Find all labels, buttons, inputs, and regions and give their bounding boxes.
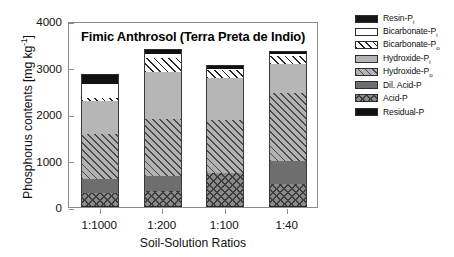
legend-label-subscript: i <box>429 57 430 64</box>
x-axis-tick <box>162 209 163 214</box>
y-axis-title-exponent: -1 <box>19 39 29 46</box>
legend-item[interactable]: Resin-Pi <box>355 12 454 25</box>
y-axis-tick <box>69 69 74 70</box>
legend-item[interactable]: Hydroxide-Po <box>355 65 454 78</box>
bar-segment[interactable] <box>81 193 119 207</box>
bar-segment[interactable] <box>144 58 182 72</box>
chart-title: Fimic Anthrosol (Terra Preta de Indio) <box>81 29 305 44</box>
legend-item[interactable]: Bicarbonate-Po <box>355 39 454 52</box>
bar-segment[interactable] <box>269 56 307 64</box>
bar-segment[interactable] <box>144 119 182 175</box>
legend-label-subscript: o <box>429 71 432 78</box>
y-axis-tick-label: 1000 <box>2 155 62 168</box>
x-axis-tick-label: 1:40 <box>242 218 332 231</box>
x-axis-tick <box>100 209 101 214</box>
bar-segment[interactable] <box>81 74 119 84</box>
bar-segment[interactable] <box>269 184 307 207</box>
plot-area: Fimic Anthrosol (Terra Preta de Indio) <box>68 22 318 208</box>
bar-segment[interactable] <box>144 72 182 119</box>
stacked-bar[interactable] <box>206 65 244 207</box>
legend-swatch <box>355 68 378 76</box>
y-axis-title-suffix: ] <box>21 35 35 38</box>
y-axis-tick-label: 3000 <box>2 62 62 75</box>
legend-label-subscript: i <box>436 31 437 38</box>
bar-segment[interactable] <box>81 84 119 98</box>
bar-segment[interactable] <box>269 93 307 160</box>
y-axis-tick <box>69 116 74 117</box>
bar-segment[interactable] <box>81 101 119 134</box>
legend-label: Resin-Pi <box>383 13 414 25</box>
bar-segment[interactable] <box>144 176 182 191</box>
stacked-bar[interactable] <box>144 49 182 207</box>
x-axis-title: Soil-Solution Ratios <box>68 236 318 250</box>
stacked-bar[interactable] <box>269 51 307 207</box>
legend-item[interactable]: Hydroxide-Pi <box>355 52 454 65</box>
legend-swatch <box>355 15 378 23</box>
legend-item[interactable]: Acid-P <box>355 92 454 105</box>
legend-swatch <box>355 55 378 63</box>
bar-segment[interactable] <box>206 70 244 79</box>
legend-item[interactable]: Dil. Acid-P <box>355 78 454 91</box>
chart-legend: Resin-PiBicarbonate-PiBicarbonate-PoHydr… <box>355 12 454 118</box>
y-axis-tick <box>69 23 74 24</box>
bar-segment[interactable] <box>269 161 307 184</box>
y-axis-tick <box>69 209 74 210</box>
stacked-bar[interactable] <box>81 74 119 207</box>
bar-segment[interactable] <box>81 134 119 179</box>
bar-segment[interactable] <box>269 64 307 93</box>
legend-swatch <box>355 28 378 36</box>
y-axis-tick-label: 2000 <box>2 108 62 121</box>
legend-swatch <box>355 108 378 116</box>
legend-label: Bicarbonate-Pi <box>383 26 437 38</box>
legend-label-subscript: i <box>413 18 414 25</box>
legend-label: Hydroxide-Po <box>383 66 433 78</box>
bar-segment[interactable] <box>206 173 244 207</box>
legend-label: Residual-P <box>383 107 424 117</box>
x-axis-tick <box>287 209 288 214</box>
bar-segment[interactable] <box>144 191 182 208</box>
chart-figure: Phosphorus contents [mg kg-1] 0100020003… <box>0 0 454 257</box>
legend-swatch <box>355 81 378 89</box>
bar-segment[interactable] <box>206 120 244 173</box>
y-axis-tick <box>69 162 74 163</box>
legend-swatch <box>355 41 378 49</box>
legend-swatch <box>355 94 378 102</box>
legend-item[interactable]: Residual-P <box>355 105 454 118</box>
legend-label: Acid-P <box>383 93 408 103</box>
legend-label: Bicarbonate-Po <box>383 39 440 51</box>
legend-item[interactable]: Bicarbonate-Pi <box>355 25 454 38</box>
legend-label: Dil. Acid-P <box>383 80 422 90</box>
y-axis-tick-label: 4000 <box>2 15 62 28</box>
bar-segment[interactable] <box>81 179 119 192</box>
bar-segment[interactable] <box>206 78 244 120</box>
legend-label: Hydroxide-Pi <box>383 53 430 65</box>
x-axis-tick <box>225 209 226 214</box>
y-axis-tick-label: 0 <box>2 201 62 214</box>
legend-label-subscript: o <box>436 44 439 51</box>
